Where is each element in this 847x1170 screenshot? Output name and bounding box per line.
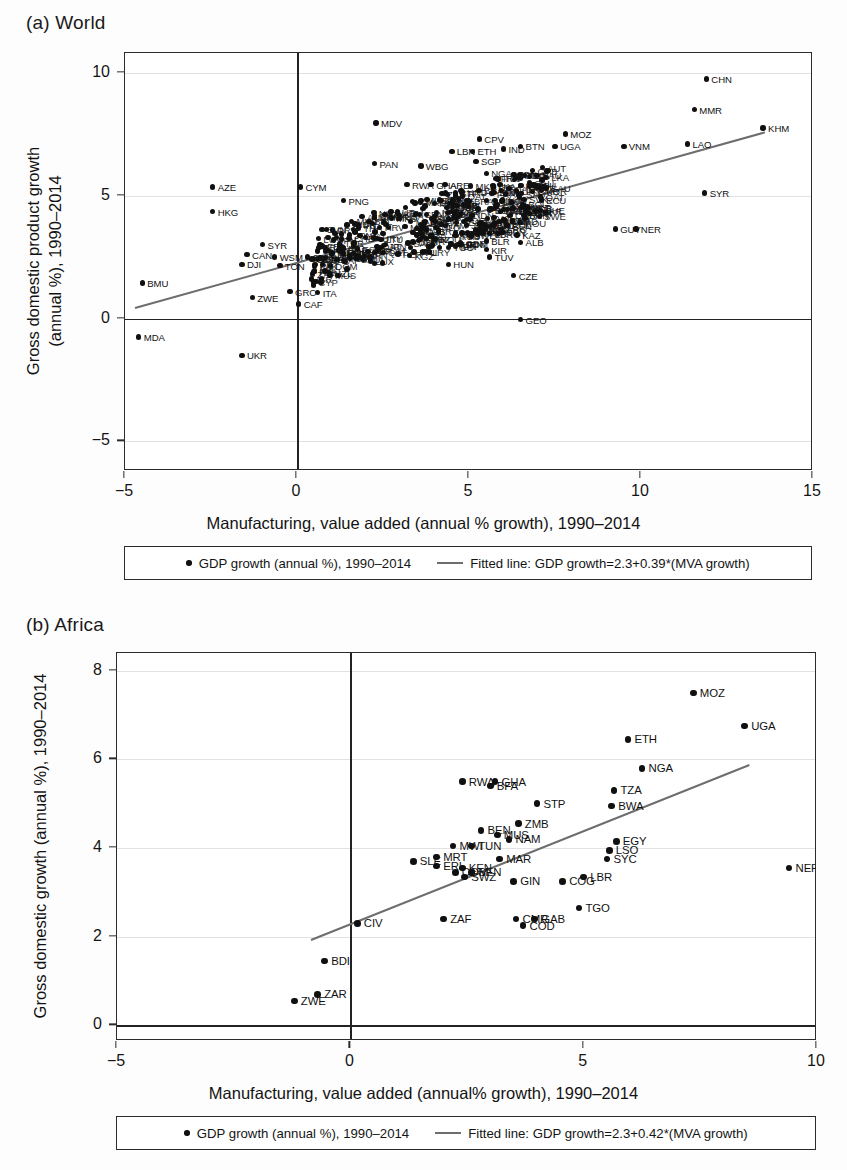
data-point-label: VNM (629, 141, 650, 152)
data-point (239, 262, 244, 267)
data-point (563, 131, 568, 136)
data-point-label: NAM (516, 833, 541, 845)
data-point (404, 182, 409, 187)
data-point (484, 171, 489, 176)
data-point (442, 182, 447, 187)
data-point-label: PAN (379, 158, 398, 169)
data-point (324, 227, 329, 232)
data-point (513, 916, 520, 923)
data-point-label: ETH (635, 733, 657, 745)
data-point (375, 247, 380, 252)
data-point (459, 778, 466, 785)
legend-entry-fitline: Fitted line: GDP growth=2.3+0.39*(MVA gr… (437, 556, 750, 571)
data-point-label: TON (285, 260, 305, 271)
data-point (625, 736, 632, 743)
y-axis-tick-mark (109, 846, 116, 847)
data-point (321, 958, 328, 965)
data-point (277, 263, 282, 268)
data-point-label: EGY (495, 205, 515, 216)
data-point (503, 191, 508, 196)
x-axis-tick-mark (582, 1041, 583, 1048)
panel-a-legend: GDP growth (annual %), 1990–2014 Fitted … (124, 546, 812, 580)
data-point-label: NER (641, 223, 661, 234)
data-point-label: CIV (364, 917, 383, 929)
data-point-label: HUN (453, 259, 474, 270)
data-point-label: SYR (710, 188, 729, 199)
y-axis-tick-mark (109, 1024, 116, 1025)
data-point (298, 184, 303, 189)
data-point (511, 273, 516, 278)
data-point-label: BFA (497, 780, 518, 792)
data-point (518, 240, 523, 245)
legend-entry-points: GDP growth (annual %), 1990–2014 (184, 1126, 409, 1141)
data-point (352, 221, 357, 226)
y-axis-tick-mark (109, 758, 116, 759)
data-point (521, 197, 526, 202)
data-point (371, 210, 376, 215)
data-point (140, 280, 145, 285)
data-point (316, 236, 321, 241)
data-point-label: TGO (453, 242, 474, 253)
x-axis-tick-label: −5 (115, 482, 133, 500)
gridline (117, 937, 815, 938)
data-point (339, 231, 344, 236)
y-axis-tick-label: −5 (62, 431, 110, 449)
x-axis-tick-label: 0 (345, 1052, 354, 1070)
panel-a-title: (a) World (26, 12, 106, 34)
data-point (518, 317, 523, 322)
data-point-label: BWA (618, 800, 643, 812)
gridline (125, 73, 811, 74)
x-axis-tick-mark (467, 471, 468, 478)
data-point (378, 237, 383, 242)
data-point (446, 262, 451, 267)
data-point-label: SYC (614, 853, 637, 865)
data-point (611, 787, 618, 794)
data-point (210, 184, 215, 189)
gridline (117, 759, 815, 760)
y-axis-tick-mark (117, 440, 124, 441)
data-point (639, 765, 646, 772)
data-point-label: IND (508, 143, 524, 154)
data-point (250, 295, 255, 300)
data-point (296, 301, 301, 306)
zero-horizontal-line (125, 319, 811, 321)
data-point (433, 225, 438, 230)
data-point-label: DJI (247, 259, 261, 270)
data-point-label: TGO (586, 902, 610, 914)
panel-b-x-axis-label: Manufacturing, value added (annual% grow… (0, 1084, 847, 1103)
data-point (534, 800, 541, 807)
data-point (786, 865, 793, 872)
data-point-label: UGA (751, 720, 775, 732)
data-point (341, 198, 346, 203)
data-point-label: COG (569, 875, 595, 887)
data-point-label: ZWE (301, 995, 326, 1007)
data-point-label: STP (544, 798, 566, 810)
y-axis-tick-mark (117, 317, 124, 318)
data-point (315, 290, 320, 295)
data-point-label: ZWE (257, 292, 278, 303)
data-point-label: BMU (147, 277, 168, 288)
data-point-label: SWZ (471, 871, 496, 883)
data-point (272, 254, 277, 259)
data-point-label: TUV (495, 252, 514, 263)
data-point (501, 146, 506, 151)
panel-b-y-axis-label-text: Gross domestic growth (annual %), 1990–2… (29, 652, 51, 1040)
zero-vertical-line (350, 653, 352, 1039)
data-point (410, 858, 417, 865)
data-point-label: CAF (304, 298, 323, 309)
data-point (325, 235, 330, 240)
data-point-label: CIV (312, 252, 328, 263)
x-axis-tick-label: 5 (578, 1052, 587, 1070)
data-point (418, 199, 423, 204)
data-point (464, 222, 469, 227)
data-point-label: BDI (331, 955, 350, 967)
y-axis-tick-label: 4 (54, 838, 102, 856)
data-point (459, 230, 464, 235)
data-point (741, 723, 748, 730)
zero-horizontal-line (117, 1025, 815, 1027)
data-point (466, 232, 471, 237)
data-point-label: SGP (481, 156, 501, 167)
x-axis-tick-mark (123, 471, 124, 478)
data-point (446, 245, 451, 250)
data-point-label: COD (530, 920, 555, 932)
